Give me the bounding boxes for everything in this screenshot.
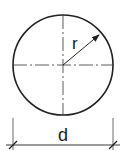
radius-label: r <box>72 34 78 53</box>
circle-dimension-diagram: r d <box>0 0 128 151</box>
diameter-label: d <box>58 125 68 145</box>
radius-arrow <box>63 35 99 65</box>
